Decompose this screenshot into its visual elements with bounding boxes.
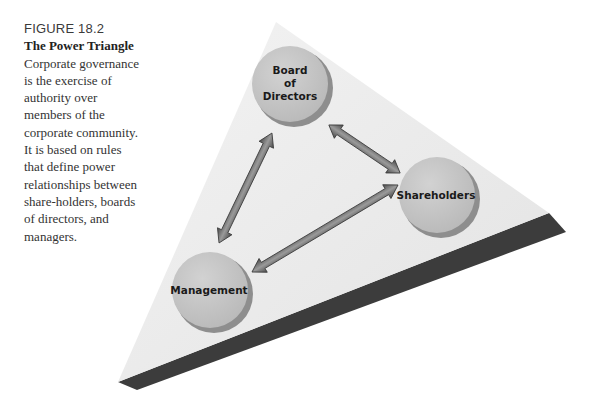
- board-label-line3: Directors: [263, 90, 318, 102]
- management-label: Management: [170, 284, 247, 296]
- shareholders-label: Shareholders: [397, 189, 476, 201]
- triangle-face: [118, 22, 549, 382]
- board-label-line2: of: [284, 77, 296, 89]
- power-triangle-diagram: Board of Directors Shareholders Manageme…: [0, 0, 596, 405]
- board-label-line1: Board: [273, 64, 308, 76]
